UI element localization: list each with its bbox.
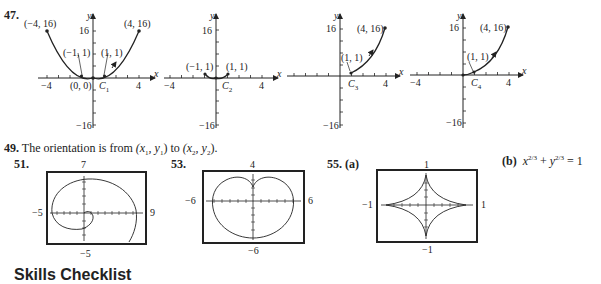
window-right: 6: [308, 195, 313, 206]
x-tick-neg4: −4: [410, 77, 421, 88]
point-label: (1, 1): [467, 51, 489, 62]
point-label: (4, 16): [357, 23, 384, 34]
x-tick-4: 4: [506, 77, 511, 88]
graph-51: [47, 172, 146, 244]
point-label: (1, 1): [101, 47, 123, 58]
graph-55a: [377, 170, 477, 242]
curve-label-c2: C2: [222, 80, 232, 94]
window-top: 4: [250, 159, 255, 170]
problem-number-51: 51.: [14, 157, 29, 172]
window-top: 7: [81, 159, 86, 170]
point-label: (−4, 16): [24, 18, 56, 29]
y-axis-label: y: [457, 10, 461, 21]
point-label: (1, 1): [226, 61, 248, 72]
point-label: (4, 16): [124, 18, 151, 29]
window-right: 1: [481, 199, 486, 210]
y-tick-16: 16: [202, 25, 212, 36]
window-left: −6: [185, 195, 196, 206]
x-tick-neg4: −4: [41, 80, 52, 91]
graph-c2: [164, 14, 278, 128]
y-axis-label: y: [210, 10, 214, 21]
curve-label-c3: C3: [348, 78, 358, 92]
x-axis-label: x: [277, 68, 281, 79]
x-tick-neg4: −4: [164, 80, 175, 91]
window-bottom: −6: [248, 245, 259, 256]
y-tick-neg16: −16: [199, 120, 215, 131]
point-label: (−1, 1): [186, 61, 213, 72]
y-axis-label: y: [334, 10, 338, 21]
y-tick-neg16: −16: [323, 120, 339, 131]
y-axis-label: y: [87, 10, 91, 21]
x-tick-4: 4: [259, 80, 264, 91]
curve-label-c4: C4: [471, 77, 481, 91]
y-tick-16: 16: [449, 22, 459, 33]
curve-label-c1: C1: [99, 80, 109, 94]
window-left: −1: [362, 199, 373, 210]
window-right: 9: [150, 207, 155, 218]
point-label: (0, 0): [70, 80, 92, 91]
y-tick-neg16: −16: [446, 117, 462, 128]
window-left: −5: [32, 207, 43, 218]
window-bottom: −5: [80, 248, 91, 259]
x-tick-4: 4: [136, 80, 141, 91]
x-axis-label: x: [154, 68, 158, 79]
y-tick-16: 16: [326, 23, 336, 34]
y-tick-16: 16: [79, 25, 89, 36]
problem-number-55: 55. (a): [327, 157, 359, 172]
x-axis-label: x: [522, 65, 526, 76]
y-tick-neg16: −16: [76, 120, 92, 131]
problem-number-53: 53.: [171, 157, 186, 172]
x-axis-label: x: [399, 66, 403, 77]
window-top: 1: [424, 159, 429, 170]
problem-49: 49. The orientation is from (x1, y1) to …: [4, 141, 217, 157]
graph-53: [203, 171, 304, 243]
point-label: (1, 1): [341, 52, 363, 63]
point-label: (4, 16): [480, 22, 507, 33]
point-label: (−1, 1): [63, 47, 90, 58]
x-tick-4: 4: [383, 78, 388, 89]
section-heading-cut: Skills Checklist: [14, 266, 131, 284]
window-bottom: −1: [422, 244, 433, 255]
problem-55b: (b) x2/3 + y2/3 = 1: [502, 154, 583, 169]
